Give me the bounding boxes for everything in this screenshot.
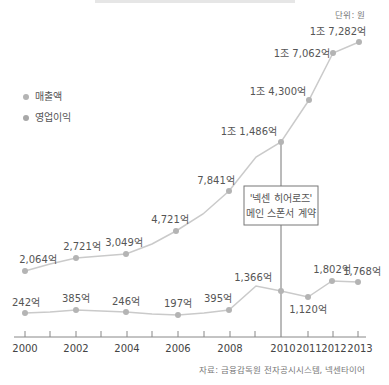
svg-text:242억: 242억 [12, 297, 40, 308]
legend-dot-revenue [23, 94, 29, 100]
annotation-line-1: '넥센 히어로즈' [250, 193, 313, 204]
svg-text:2,721억: 2,721억 [63, 241, 101, 252]
source-note: 자료: 금융감독원 전자공시시스템, 넥센타이어 [199, 365, 365, 375]
annotation-box: '넥센 히어로즈' 메인 스폰서 계약 [244, 186, 318, 225]
svg-text:2013: 2013 [347, 343, 372, 354]
unit-label: 단위: 원 [335, 10, 365, 20]
revenue-labels: 2,064억 2,721억 3,049억 4,721억 7,841억 1조 1,… [19, 26, 366, 265]
operating-profit-labels: 242억 385억 246억 197억 395억 1,366억 1,120억 1… [12, 264, 381, 315]
svg-text:2008: 2008 [217, 343, 242, 354]
annotation-line-2: 메인 스폰서 계약 [246, 208, 315, 219]
revenue-points [22, 39, 362, 274]
svg-text:1,366억: 1,366억 [234, 272, 272, 283]
svg-text:4,721억: 4,721억 [151, 214, 189, 225]
revenue-line [25, 42, 359, 271]
svg-text:3,049억: 3,049억 [105, 237, 143, 248]
svg-text:2012: 2012 [321, 343, 346, 354]
svg-text:395억: 395억 [204, 293, 232, 304]
svg-text:246억: 246억 [112, 296, 140, 307]
svg-text:7,841억: 7,841억 [197, 175, 235, 186]
svg-text:1,768억: 1,768억 [343, 266, 381, 277]
legend-dot-operating-profit [23, 115, 29, 121]
chart-title-truncated [95, 0, 295, 3]
x-axis-tick-labels: 2000 2002 2004 2006 2008 2010 2011 2012 … [12, 343, 372, 354]
svg-text:1조 4,300억: 1조 4,300억 [250, 86, 306, 97]
svg-text:2,064억: 2,064억 [19, 254, 57, 265]
svg-text:1조 1,486억: 1조 1,486억 [221, 126, 277, 137]
svg-text:197억: 197억 [164, 298, 192, 309]
svg-text:1조 7,282억: 1조 7,282억 [310, 26, 366, 37]
svg-text:1,120억: 1,120억 [289, 304, 327, 315]
legend-label-revenue: 매출액 [35, 91, 62, 102]
svg-text:385억: 385억 [62, 293, 90, 304]
svg-text:2004: 2004 [114, 343, 139, 354]
svg-text:2006: 2006 [165, 343, 190, 354]
svg-text:2002: 2002 [63, 343, 88, 354]
svg-text:2011: 2011 [296, 343, 321, 354]
svg-text:2010: 2010 [270, 343, 295, 354]
x-axis [14, 331, 366, 337]
legend-label-operating-profit: 영업이익 [35, 111, 71, 123]
svg-text:1조 7,062억: 1조 7,062억 [274, 48, 330, 59]
chart-canvas: 단위: 원 매출액 영업이익 '넥센 히어로즈' 메인 스폰서 계약 2,064… [0, 0, 389, 385]
legend: 매출액 영업이익 [23, 91, 71, 123]
svg-text:2000: 2000 [12, 343, 37, 354]
